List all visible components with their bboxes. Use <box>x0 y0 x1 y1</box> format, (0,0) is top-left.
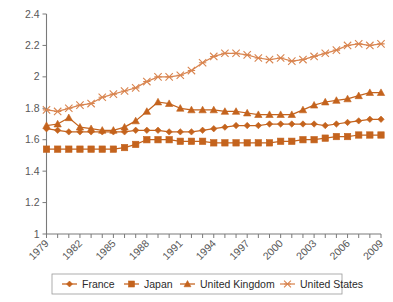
marker-cross <box>65 105 72 112</box>
marker-square <box>311 137 317 143</box>
x-axis: 1979198219851988199119941997200020032006… <box>26 234 386 262</box>
marker-square <box>188 138 194 144</box>
marker-cross <box>110 90 117 97</box>
marker-cross <box>366 42 373 49</box>
marker-diamond <box>188 129 194 135</box>
x-tick-label: 1994 <box>193 237 218 262</box>
marker-square <box>166 137 172 143</box>
x-tick-label: 2006 <box>327 237 352 262</box>
marker-diamond <box>255 122 261 128</box>
y-tick-label: 2.4 <box>25 8 40 20</box>
marker-cross <box>87 100 94 107</box>
x-tick-label: 1988 <box>126 237 151 262</box>
y-tick-label: 2 <box>34 70 40 82</box>
marker-cross <box>76 101 83 108</box>
marker-square <box>133 141 139 147</box>
marker-square <box>77 146 83 152</box>
marker-square <box>177 138 183 144</box>
marker-cross <box>344 42 351 49</box>
marker-cross <box>355 40 362 47</box>
marker-diamond <box>66 129 72 135</box>
marker-cross <box>54 108 61 115</box>
marker-cross <box>143 78 150 85</box>
chart-canvas: 11.21.41.61.822.22.419791982198519881991… <box>0 0 393 302</box>
marker-square <box>233 140 239 146</box>
marker-square <box>289 138 295 144</box>
marker-cross <box>232 50 239 57</box>
marker-cross <box>188 67 195 74</box>
marker-square <box>54 146 60 152</box>
marker-triangle <box>121 123 128 130</box>
marker-cross <box>266 56 273 63</box>
marker-diamond <box>378 116 384 122</box>
marker-triangle <box>299 106 306 113</box>
y-tick-label: 1.8 <box>25 102 40 114</box>
y-tick-label: 1.6 <box>25 133 40 145</box>
marker-diamond <box>333 121 339 127</box>
marker-cross <box>132 84 139 91</box>
marker-cross <box>210 53 217 60</box>
marker-triangle <box>177 105 184 112</box>
legend-label: Japan <box>144 278 173 290</box>
x-tick-label: 2000 <box>260 237 285 262</box>
marker-diamond <box>289 121 295 127</box>
legend: FranceJapanUnited KingdomUnited States <box>52 274 363 294</box>
marker-diamond <box>300 121 306 127</box>
marker-cross <box>277 54 284 61</box>
marker-cross <box>377 40 384 47</box>
legend-label: France <box>82 278 115 290</box>
series-united-states <box>43 40 385 115</box>
marker-square <box>121 144 127 150</box>
marker-diamond <box>244 122 250 128</box>
marker-triangle <box>154 98 161 105</box>
x-tick-label: 1982 <box>59 237 84 262</box>
marker-diamond <box>277 121 283 127</box>
marker-diamond <box>266 121 272 127</box>
line-chart: 11.21.41.61.822.22.419791982198519881991… <box>0 0 393 302</box>
x-tick-label: 2009 <box>360 237 385 262</box>
y-axis: 11.21.41.61.822.22.4 <box>25 8 47 240</box>
marker-diamond <box>155 127 161 133</box>
legend-label: United Kingdom <box>200 278 275 290</box>
marker-square <box>99 146 105 152</box>
marker-square <box>155 137 161 143</box>
marker-cross <box>221 50 228 57</box>
x-tick-label: 1979 <box>26 237 51 262</box>
marker-square <box>129 281 135 287</box>
marker-square <box>244 140 250 146</box>
marker-triangle <box>65 114 72 121</box>
series-france <box>43 116 384 135</box>
legend-label: United States <box>300 278 363 290</box>
marker-diamond <box>322 122 328 128</box>
marker-square <box>367 132 373 138</box>
series-japan <box>43 132 384 153</box>
marker-diamond <box>177 129 183 135</box>
marker-square <box>43 146 49 152</box>
marker-cross <box>310 53 317 60</box>
marker-square <box>266 140 272 146</box>
marker-cross <box>299 56 306 63</box>
marker-square <box>322 135 328 141</box>
marker-cross <box>199 59 206 66</box>
marker-diamond <box>133 127 139 133</box>
marker-square <box>222 140 228 146</box>
marker-square <box>356 132 362 138</box>
marker-square <box>88 146 94 152</box>
y-tick-label: 2.2 <box>25 39 40 51</box>
y-tick-label: 1.2 <box>25 196 40 208</box>
marker-cross <box>121 87 128 94</box>
x-tick-label: 2003 <box>294 237 319 262</box>
y-tick-label: 1 <box>34 228 40 240</box>
marker-diamond <box>144 127 150 133</box>
marker-square <box>66 146 72 152</box>
marker-square <box>255 140 261 146</box>
marker-cross <box>288 57 295 64</box>
marker-triangle <box>54 120 61 127</box>
marker-cross <box>255 54 262 61</box>
x-tick-label: 1985 <box>93 237 118 262</box>
marker-square <box>333 133 339 139</box>
marker-square <box>199 138 205 144</box>
marker-square <box>378 132 384 138</box>
y-tick-label: 1.4 <box>25 165 40 177</box>
marker-cross <box>333 46 340 53</box>
